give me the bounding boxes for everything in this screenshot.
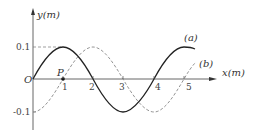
series-a-curve: [33, 47, 195, 112]
x-axis-label: x(m): [222, 67, 245, 78]
x-axis-arrow-icon: [209, 77, 217, 81]
y-tick-negative: -0.1: [13, 107, 30, 117]
point-p-label: P: [56, 67, 64, 78]
y-axis-arrow-icon: [31, 8, 35, 15]
x-tick-5: 5: [186, 82, 192, 92]
wave-diagram: y(m) x(m) O 0.1 -0.1 P 1 2 3 4 5 (a) (b): [0, 0, 256, 138]
origin-label: O: [24, 74, 32, 85]
series-b-curve: [33, 47, 196, 112]
x-tick-2: 2: [89, 82, 95, 92]
series-b-label: (b): [199, 58, 213, 69]
x-tick-3: 3: [119, 82, 125, 92]
x-tick-4: 4: [155, 82, 161, 92]
y-axis-label: y(m): [36, 9, 60, 20]
y-tick-positive: 0.1: [16, 42, 30, 52]
x-tick-1: 1: [62, 82, 68, 92]
series-a-label: (a): [184, 32, 198, 43]
